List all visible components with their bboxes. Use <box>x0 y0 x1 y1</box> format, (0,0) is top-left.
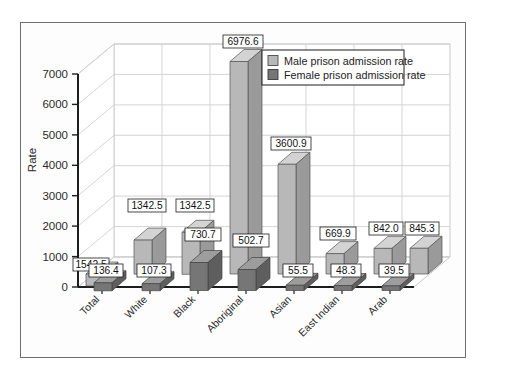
legend-label-male: Male prison admission rate <box>284 55 413 67</box>
svg-text:55.5: 55.5 <box>288 265 308 276</box>
cat-label-arab: Arab <box>365 293 389 317</box>
bar-chart-3d: 0 1000 2000 3000 4000 5000 6000 7000 Rat… <box>0 0 506 380</box>
svg-text:136.4: 136.4 <box>93 265 119 276</box>
svg-text:48.3: 48.3 <box>336 265 356 276</box>
svg-text:3600.9: 3600.9 <box>275 138 306 149</box>
svg-text:1342.5: 1342.5 <box>131 200 162 211</box>
y-axis-title: Rate <box>26 148 38 172</box>
svg-text:669.9: 669.9 <box>325 228 351 239</box>
chart-screenshot: 0 1000 2000 3000 4000 5000 6000 7000 Rat… <box>0 0 506 380</box>
svg-text:39.5: 39.5 <box>384 265 404 276</box>
svg-text:6976.6: 6976.6 <box>227 36 258 47</box>
cat-label-aboriginal: Aboriginal <box>204 293 246 335</box>
y-tick-0: 0 <box>62 281 68 293</box>
left-wall <box>78 44 114 287</box>
value-label-male-arab-a: 842.0 <box>369 222 403 235</box>
value-label-female-white: 107.3 <box>137 264 171 277</box>
y-tick-7000: 7000 <box>42 68 68 80</box>
y-axis: 0 1000 2000 3000 4000 5000 6000 7000 Rat… <box>26 68 78 293</box>
svg-text:845.3: 845.3 <box>409 223 435 234</box>
legend-swatch-male <box>268 56 278 66</box>
value-label-male-east-indian: 669.9 <box>320 227 356 240</box>
legend-label-female: Female prison admission rate <box>284 69 426 81</box>
value-label-male-arab-b: 845.3 <box>405 222 439 235</box>
y-tick-2000: 2000 <box>42 220 68 232</box>
value-label-male-black: 1342.5 <box>176 199 214 212</box>
value-label-female-east-indian: 48.3 <box>331 264 361 277</box>
y-tick-1000: 1000 <box>42 251 68 263</box>
value-label-female-total: 136.4 <box>89 264 123 277</box>
y-tick-6000: 6000 <box>42 98 68 110</box>
legend: Male prison admission rate Female prison… <box>262 50 426 85</box>
cat-label-east-indian: East Indian <box>296 293 342 339</box>
bar-male-asian <box>278 152 310 274</box>
svg-text:730.7: 730.7 <box>190 229 216 240</box>
svg-text:107.3: 107.3 <box>141 265 167 276</box>
x-category-labels: Total White Black Aboriginal Asian East … <box>77 292 389 338</box>
value-label-female-black: 730.7 <box>185 228 221 241</box>
y-tick-4000: 4000 <box>42 159 68 171</box>
value-label-male-aboriginal: 6976.6 <box>223 35 263 48</box>
svg-text:1342.5: 1342.5 <box>179 200 210 211</box>
y-tick-5000: 5000 <box>42 129 68 141</box>
y-tick-3000: 3000 <box>42 190 68 202</box>
cat-label-black: Black <box>171 292 198 319</box>
value-label-female-asian: 55.5 <box>283 264 313 277</box>
svg-text:502.7: 502.7 <box>238 235 264 246</box>
value-label-female-aboriginal: 502.7 <box>233 234 269 247</box>
cat-label-total: Total <box>77 293 101 317</box>
value-label-male-white: 1342.5 <box>128 199 166 212</box>
cat-label-white: White <box>122 293 150 321</box>
value-label-male-asian: 3600.9 <box>271 137 311 150</box>
legend-swatch-female <box>268 70 278 80</box>
value-label-female-arab: 39.5 <box>379 264 409 277</box>
svg-text:842.0: 842.0 <box>373 223 399 234</box>
cat-label-asian: Asian <box>266 293 293 320</box>
